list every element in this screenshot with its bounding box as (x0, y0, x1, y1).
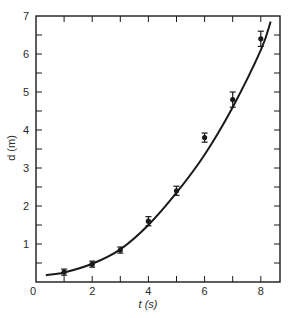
y-tick-label: 5 (23, 86, 29, 98)
x-tick-label: 8 (258, 285, 264, 297)
y-tick-labels: 1234567 (23, 10, 29, 250)
y-tick-label: 4 (23, 124, 29, 136)
data-point (202, 133, 208, 142)
y-tick-label: 7 (23, 10, 29, 22)
y-tick-label: 3 (23, 162, 29, 174)
x-axis-title: t (s) (139, 298, 158, 310)
y-tick-label: 2 (23, 200, 29, 212)
data-point (145, 217, 151, 226)
fit-curve (46, 22, 271, 275)
y-axis-title: d (m) (5, 135, 17, 161)
plot-frame (36, 16, 280, 282)
y-tick-label: 6 (23, 48, 29, 60)
data-point (61, 269, 67, 275)
x-tick-label: 6 (202, 285, 208, 297)
data-points (61, 31, 264, 275)
x-tick-label: 4 (145, 285, 151, 297)
x-tick-label: 0 (30, 285, 36, 297)
y-tick-label: 1 (23, 238, 29, 250)
x-tick-label: 2 (89, 285, 95, 297)
axis-ticks (36, 16, 280, 282)
x-tick-labels: 02468 (30, 285, 264, 297)
chart: 02468 1234567 t (s) d (m) (0, 0, 291, 318)
